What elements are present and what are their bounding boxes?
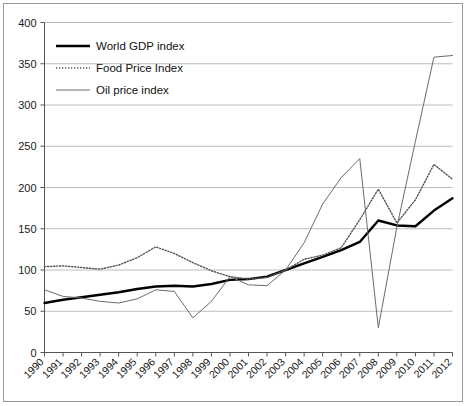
- x-axis: 1990199119921993199419951996199719981999…: [21, 353, 454, 381]
- y-tick-label: 400: [18, 17, 36, 29]
- data-series: [45, 56, 453, 328]
- series-line: [45, 164, 453, 279]
- legend-item-label: Food Price Index: [96, 62, 183, 74]
- y-tick-label: 50: [24, 305, 36, 317]
- y-tick-label: 150: [18, 223, 36, 235]
- series-line: [45, 56, 453, 328]
- chart-page: 050100150200250300350400 199019911992199…: [0, 0, 467, 406]
- x-tick-label: 2012: [429, 355, 454, 380]
- y-tick-label: 200: [18, 182, 36, 194]
- y-axis: 050100150200250300350400: [18, 17, 44, 359]
- y-tick-label: 300: [18, 99, 36, 111]
- y-tick-label: 250: [18, 140, 36, 152]
- y-tick-label: 100: [18, 264, 36, 276]
- chart-legend: World GDP indexFood Price IndexOil price…: [56, 40, 185, 96]
- legend-item-label: World GDP index: [96, 40, 185, 52]
- y-tick-label: 350: [18, 58, 36, 70]
- line-chart: 050100150200250300350400 199019911992199…: [0, 0, 467, 406]
- legend-item-label: Oil price index: [96, 84, 169, 96]
